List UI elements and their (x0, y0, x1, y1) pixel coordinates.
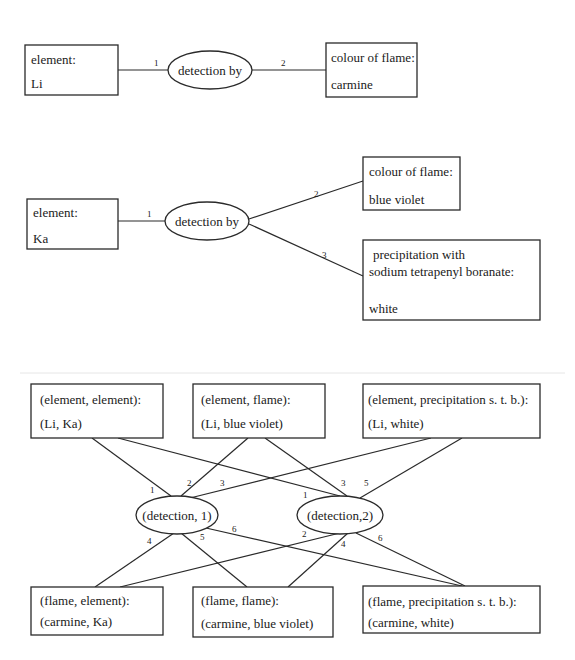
pair-label: (flame, precipitation s. t. b.): (368, 594, 517, 609)
edge-label: 6 (232, 524, 237, 534)
edge-label: 2 (187, 478, 192, 488)
entity-label: element: (31, 52, 76, 67)
pair-value: (Li, white) (368, 416, 424, 431)
edge-3 (249, 224, 363, 276)
edge (190, 438, 431, 498)
pair-label: (element, element): (40, 392, 141, 407)
pair-value: (Li, blue violet) (201, 416, 283, 431)
edge-label: 2 (302, 529, 307, 539)
entity-value: Ka (33, 231, 48, 246)
diagram-ka: element: Ka detection by colour of flame… (27, 157, 540, 320)
pair-value: (carmine, Ka) (40, 614, 112, 629)
pair-label: (element, precipitation s. t. b.): (368, 392, 528, 407)
edge-label: 4 (147, 536, 152, 546)
edge-label: 1 (150, 485, 155, 495)
relationship-label: detection by (175, 214, 239, 229)
pair-label: (flame, flame): (201, 593, 279, 608)
edge-label: 1 (154, 58, 159, 68)
relationship-label: (detection,2) (307, 508, 373, 523)
entity-label: colour of flame: (369, 164, 453, 179)
edge-label: 4 (341, 539, 346, 549)
pair-value: (carmine, white) (368, 615, 454, 630)
pair-label: (element, flame): (201, 392, 291, 407)
edge (120, 533, 340, 587)
edge (181, 533, 247, 587)
edge-label: 1 (303, 490, 308, 500)
entity-label: element: (33, 205, 78, 220)
edge (288, 533, 348, 587)
entity-value: white (369, 301, 398, 316)
relationship-label: (detection, 1) (142, 508, 211, 523)
edge-label: 2 (314, 189, 319, 199)
diagram-product: (element, element): (Li, Ka) (element, f… (31, 384, 540, 637)
relationship-label: detection by (178, 63, 242, 78)
entity-value: Li (31, 76, 43, 91)
pair-label: (flame, element): (40, 593, 130, 608)
edge-label: 3 (220, 478, 225, 488)
edge-label: 5 (200, 532, 205, 542)
pair-value: (Li, Ka) (40, 416, 82, 431)
edge-label: 1 (147, 209, 152, 219)
pair-value: (carmine, blue violet) (201, 616, 313, 631)
edge (95, 533, 174, 587)
edge-label: 2 (281, 58, 286, 68)
edge-label: 3 (322, 250, 327, 260)
entity-value: blue violet (369, 192, 425, 207)
diagram-li: element: Li detection by colour of flame… (25, 43, 417, 97)
edge-label: 3 (341, 478, 346, 488)
edge-label: 5 (364, 478, 369, 488)
entity-label-line1: precipitation with (373, 247, 466, 262)
edge-label: 6 (378, 533, 383, 543)
edge (360, 438, 462, 498)
er-diagram-canvas: element: Li detection by colour of flame… (0, 0, 575, 660)
entity-label: colour of flame: (331, 50, 415, 65)
edge (356, 533, 465, 586)
edge (92, 438, 171, 496)
entity-value: carmine (331, 77, 373, 92)
edge-2 (249, 181, 363, 219)
entity-label-line2: sodium tetrapenyl boranate: (369, 264, 514, 279)
